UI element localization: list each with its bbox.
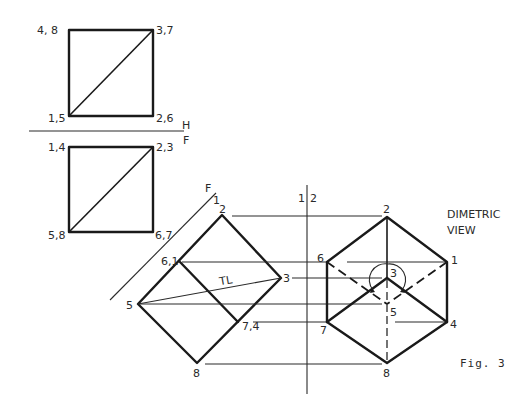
label-1-5: 1,5 [48,112,66,125]
label-2-6: 2,6 [156,112,174,125]
label-2-3: 2,3 [156,141,174,154]
dim-label-2: 2 [383,203,390,216]
edge-3-7 [327,278,387,322]
front-view: 1,4 2,3 5,8 6,7 [48,141,174,242]
dimetric-title-line1: DIMETRIC [447,208,501,221]
tl-label: TL [217,273,234,288]
top-view-diagonal [69,30,153,116]
aux-inner-edge [180,262,238,322]
dimetric-projection-figure: 4, 8 3,7 1,5 2,6 H F 1,4 2,3 5,8 6,7 F 1 [0,0,526,413]
aux-label-6-1: 6,1 [161,255,179,268]
dimetric-view: 2 6 1 3 5 7 4 8 [317,203,458,380]
aux-label-5: 5 [126,299,133,312]
dim-label-7: 7 [320,324,327,337]
label-5-8: 5,8 [48,229,66,242]
hidden-edge-6-5 [327,262,387,304]
dim-label-3: 3 [390,267,397,280]
label-f: F [183,134,189,147]
label-1-4: 1,4 [48,141,66,154]
label-h: H [182,119,190,132]
label-fold-1: 1 [298,192,305,205]
dim-label-4: 4 [450,318,457,331]
aux-label-3: 3 [283,272,290,285]
auxiliary-view: TL 2 6,1 3 5 7,4 8 [126,203,290,380]
dim-label-5: 5 [390,306,397,319]
dimetric-title-line2: VIEW [447,224,476,237]
figure-caption: Fig. 3 [460,357,506,370]
drawing: 4, 8 3,7 1,5 2,6 H F 1,4 2,3 5,8 6,7 F 1 [0,0,526,413]
aux-label-8: 8 [193,367,200,380]
dim-label-1: 1 [451,254,458,267]
label-f-aux: F [205,182,211,195]
dim-label-8: 8 [383,367,390,380]
angle-arc-left [369,264,388,290]
label-fold-2: 2 [310,192,317,205]
label-3-7: 3,7 [156,24,174,37]
aux-label-2: 2 [219,203,226,216]
top-view: 4, 8 3,7 1,5 2,6 [37,24,174,125]
front-view-diagonal [69,147,153,232]
projection-lines [140,216,447,364]
dim-label-6: 6 [317,252,324,265]
label-4-8: 4, 8 [37,24,58,37]
